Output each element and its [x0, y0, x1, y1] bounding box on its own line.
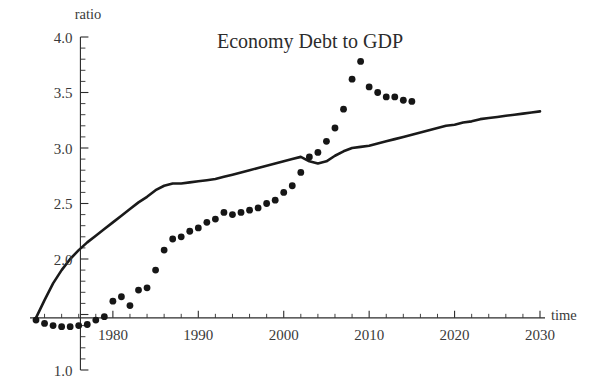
data-point [289, 182, 296, 189]
data-point [383, 94, 390, 101]
data-point [169, 236, 176, 243]
data-point [238, 209, 245, 216]
y-tick-label: 2.5 [54, 196, 73, 212]
x-tick-label: 2010 [354, 327, 384, 343]
data-point [349, 76, 356, 83]
data-point [272, 197, 279, 204]
data-point [212, 216, 219, 223]
data-point [400, 97, 407, 104]
data-point [391, 94, 398, 101]
data-point [263, 200, 270, 207]
data-point [135, 287, 142, 294]
data-point [58, 323, 65, 330]
data-point [280, 189, 287, 196]
data-point [366, 84, 373, 91]
data-point [33, 317, 40, 324]
data-point [109, 298, 116, 305]
y-tick-label: 1.0 [54, 363, 73, 379]
axes-layer [30, 37, 545, 370]
data-point [75, 322, 82, 329]
labels-layer: 1980199020002010202020301.02.02.53.03.54… [54, 30, 555, 379]
data-point [297, 169, 304, 176]
data-point [221, 209, 228, 216]
chart-canvas: 1980199020002010202020301.02.02.53.03.54… [0, 0, 590, 385]
data-point [332, 125, 339, 132]
data-point [101, 313, 108, 320]
data-point [246, 207, 253, 214]
y-tick-label: 3.0 [54, 141, 73, 157]
y-tick-label: 3.5 [54, 85, 73, 101]
y-tick-label: 4.0 [54, 30, 73, 46]
data-point [195, 225, 202, 232]
data-point [323, 138, 330, 145]
x-axis-label: time [551, 307, 577, 323]
data-point [374, 89, 381, 96]
y-axis-label: ratio [75, 6, 102, 22]
data-point [152, 267, 159, 274]
data-point [408, 98, 415, 105]
data-point [255, 205, 262, 212]
data-point [50, 322, 57, 329]
x-tick-label: 2020 [440, 327, 470, 343]
data-point [144, 284, 151, 291]
data-point [229, 211, 236, 218]
data-point [84, 321, 91, 328]
series-dots-data [33, 58, 416, 330]
chart-title: Economy Debt to GDP [217, 30, 403, 53]
x-tick-label: 1990 [183, 327, 213, 343]
data-point [161, 247, 168, 254]
chart-figure: 1980199020002010202020301.02.02.53.03.54… [0, 0, 590, 385]
data-point [118, 293, 125, 300]
series-line-model [36, 111, 540, 317]
data-point [41, 320, 48, 327]
data-point [203, 219, 210, 226]
data-point [127, 302, 134, 309]
data-point [315, 149, 322, 156]
series-layer [33, 58, 540, 330]
data-point [178, 233, 185, 240]
data-point [67, 323, 74, 330]
data-point [306, 153, 313, 160]
x-tick-label: 1980 [98, 327, 128, 343]
x-tick-label: 2000 [269, 327, 299, 343]
data-point [92, 317, 99, 324]
data-point [186, 228, 193, 235]
y-tick-label: 2.0 [54, 252, 73, 268]
data-point [357, 58, 364, 65]
data-point [340, 106, 347, 113]
x-tick-label: 2030 [525, 327, 555, 343]
